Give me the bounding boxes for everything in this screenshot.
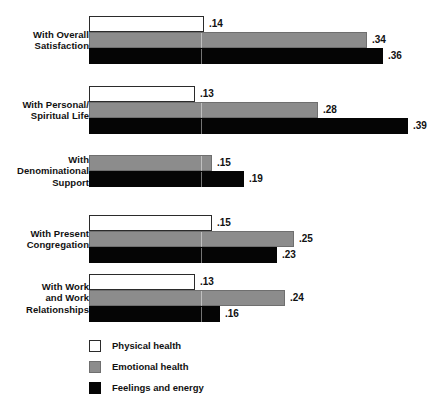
- tick-line: [201, 49, 202, 65]
- legend-label: Physical health: [112, 338, 181, 354]
- category-label: With Personal/Spiritual Life: [5, 99, 89, 122]
- legend-swatch-white: [89, 340, 101, 352]
- legend-label: Feelings and energy: [112, 380, 204, 396]
- legend-swatch-gray: [89, 361, 101, 373]
- category-label: With Workand WorkRelationships: [5, 281, 89, 316]
- bar-white[interactable]: [89, 16, 204, 32]
- legend-swatch-black: [89, 382, 101, 394]
- tick-line: [201, 248, 202, 264]
- bar-white[interactable]: [89, 86, 195, 102]
- bar-value-label: .15: [212, 155, 231, 171]
- bar-black[interactable]: [89, 171, 244, 187]
- bar-gray[interactable]: [89, 32, 367, 48]
- bar-group: With Workand WorkRelationships.13.24.16: [0, 274, 443, 322]
- grouped-bar-chart: With OverallSatisfaction.14.34.36With Pe…: [0, 0, 443, 414]
- bar-value-label: .19: [244, 171, 263, 187]
- category-label: With PresentCongregation: [5, 228, 89, 251]
- tick-line: [201, 307, 202, 323]
- legend-label: Emotional health: [112, 359, 189, 375]
- category-label: With OverallSatisfaction: [5, 29, 89, 52]
- category-label-line: Spiritual Life: [5, 110, 89, 122]
- bar-value-label: .25: [294, 231, 313, 247]
- bar-group: With OverallSatisfaction.14.34.36: [0, 16, 443, 64]
- chart-legend: Physical healthEmotional healthFeelings …: [89, 338, 349, 401]
- bar-value-label: .13: [195, 86, 214, 102]
- category-label-line: Denominational: [5, 165, 89, 177]
- bar-black[interactable]: [89, 118, 408, 134]
- bar-value-label: .13: [195, 274, 214, 290]
- bar-gray[interactable]: [89, 231, 294, 247]
- bar-value-label: .34: [367, 32, 386, 48]
- category-label-line: and Work: [5, 292, 89, 304]
- category-label: WithDenominationalSupport: [5, 154, 89, 189]
- bar-group: With Personal/Spiritual Life.13.28.39: [0, 86, 443, 134]
- tick-line: [201, 291, 202, 307]
- bar-gray[interactable]: [89, 102, 318, 118]
- bar-black[interactable]: [89, 306, 220, 322]
- bar-group: With PresentCongregation.15.25.23: [0, 215, 443, 263]
- bar-value-label: .16: [220, 306, 239, 322]
- category-label-line: Support: [5, 177, 89, 189]
- bar-gray[interactable]: [89, 290, 285, 306]
- tick-line: [201, 103, 202, 119]
- bar-black[interactable]: [89, 247, 277, 263]
- tick-line: [201, 33, 202, 49]
- category-label-line: Relationships: [5, 304, 89, 316]
- bar-black[interactable]: [89, 48, 383, 64]
- bar-value-label: .39: [408, 118, 427, 134]
- bar-white[interactable]: [89, 215, 212, 231]
- category-label-line: Congregation: [5, 239, 89, 251]
- category-label-line: With Work: [5, 281, 89, 293]
- bar-value-label: .36: [383, 48, 402, 64]
- category-label-line: With Personal/: [5, 99, 89, 111]
- category-label-line: With Present: [5, 228, 89, 240]
- bar-white[interactable]: [89, 274, 195, 290]
- bar-value-label: .15: [212, 215, 231, 231]
- category-label-line: With Overall: [5, 29, 89, 41]
- bar-value-label: .28: [318, 102, 337, 118]
- tick-line: [201, 119, 202, 135]
- bar-value-label: .24: [285, 290, 304, 306]
- legend-item[interactable]: Physical health: [89, 338, 349, 355]
- tick-line: [201, 232, 202, 248]
- bar-gray[interactable]: [89, 155, 212, 171]
- bar-value-label: .14: [204, 16, 223, 32]
- bar-group: WithDenominationalSupport.15.19: [0, 155, 443, 187]
- category-label-line: Satisfaction: [5, 40, 89, 52]
- tick-line: [201, 156, 202, 172]
- tick-line: [201, 172, 202, 188]
- plot-area: With OverallSatisfaction.14.34.36With Pe…: [0, 0, 443, 330]
- legend-item[interactable]: Feelings and energy: [89, 380, 349, 397]
- legend-item[interactable]: Emotional health: [89, 359, 349, 376]
- bar-value-label: .23: [277, 247, 296, 263]
- category-label-line: With: [5, 154, 89, 166]
